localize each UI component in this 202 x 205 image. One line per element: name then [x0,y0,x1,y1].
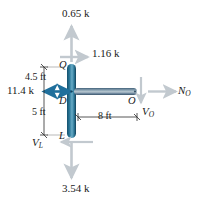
dimension-label-horizontal: 8 ft [98,111,112,121]
free-body-diagram-figure: 0.65 k 1.16 k 11.4 k 3.54 k 4.5 ft 5 ft … [0,0,202,205]
load-label-top-horizontal: 1.16 k [92,48,120,59]
load-label-top-vertical: 0.65 k [62,8,90,19]
point-label-d: D [59,96,67,107]
resultant-shear-o-base: V [142,105,149,117]
resultant-label-shear-o: VO [142,106,154,117]
resultant-normal-o-subscript: O [185,89,190,98]
load-label-bottom-vertical: 3.54 k [62,183,90,194]
vertical-member [67,64,76,138]
point-label-o: O [128,96,136,107]
resultant-label-shear-l: VL [32,137,43,148]
resultant-shear-o-subscript: O [149,110,154,119]
dimension-label-lower: 5 ft [32,107,46,117]
resultant-label-normal-o: NO [178,85,191,96]
load-label-left-horizontal: 11.4 k [7,85,34,96]
horizontal-member [74,88,137,95]
diagram-canvas [0,0,202,205]
point-label-l: L [59,131,65,142]
resultant-shear-l-subscript: L [39,141,43,150]
point-label-q: Q [59,60,67,71]
dimension-label-upper: 4.5 ft [25,72,46,82]
point-marker-o [134,90,136,92]
resultant-shear-l-base: V [32,136,39,148]
point-marker-d [70,90,72,92]
